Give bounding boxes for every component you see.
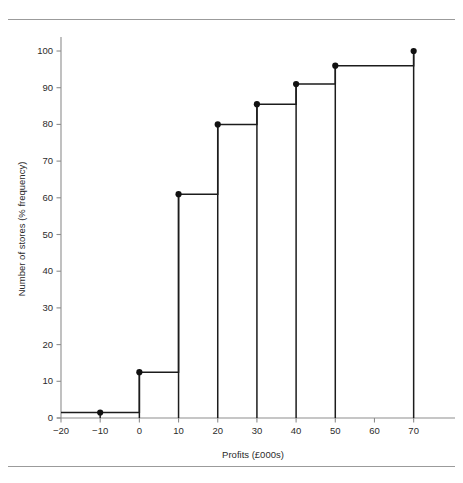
- bottom-divider-rule: [8, 466, 455, 467]
- x-axis-tick-label: 20: [212, 425, 223, 436]
- data-point-marker: [175, 191, 181, 197]
- y-axis-tick-label: 60: [42, 192, 53, 203]
- data-point-marker: [332, 63, 338, 69]
- data-point-marker: [215, 121, 221, 127]
- y-axis-tick-label: 30: [42, 302, 53, 313]
- y-axis-tick-label: 20: [42, 339, 53, 350]
- y-axis-tick-label: 70: [42, 155, 53, 166]
- data-point-marker: [411, 48, 417, 54]
- y-axis-tick-label: 0: [48, 412, 53, 423]
- y-axis-tick-label: 80: [42, 118, 53, 129]
- x-axis-tick-label: 30: [252, 425, 263, 436]
- figure-container: 0102030405060708090100−20−10010203040506…: [0, 0, 463, 483]
- top-divider-rule: [8, 19, 455, 20]
- data-point-marker: [293, 81, 299, 87]
- x-axis-tick-label: −10: [92, 425, 108, 436]
- data-point-marker: [97, 409, 103, 415]
- x-axis-tick-label: −20: [53, 425, 69, 436]
- x-axis-title: Profits (£000s): [222, 449, 284, 460]
- x-axis-tick-label: 70: [408, 425, 419, 436]
- ogive-chart: 0102030405060708090100−20−10010203040506…: [0, 22, 463, 466]
- y-axis-tick-label: 90: [42, 82, 53, 93]
- y-axis-tick-label: 50: [42, 229, 53, 240]
- x-axis-tick-label: 10: [173, 425, 184, 436]
- chart-plot-area: 0102030405060708090100−20−10010203040506…: [0, 22, 463, 466]
- data-point-marker: [136, 369, 142, 375]
- y-axis-title: Number of stores (% frequency): [16, 162, 27, 297]
- data-point-marker: [254, 101, 260, 107]
- x-axis-tick-label: 50: [330, 425, 341, 436]
- y-axis-tick-label: 40: [42, 265, 53, 276]
- x-axis-tick-label: 60: [369, 425, 380, 436]
- x-axis-tick-label: 0: [137, 425, 142, 436]
- ogive-step-line: [61, 51, 414, 412]
- x-axis-tick-label: 40: [291, 425, 302, 436]
- y-axis-tick-label: 10: [42, 375, 53, 386]
- y-axis-tick-label: 100: [37, 45, 53, 56]
